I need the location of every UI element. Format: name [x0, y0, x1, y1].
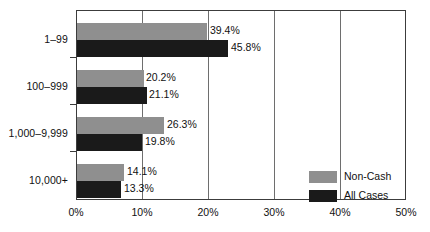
x-axis-label-40: 40% [329, 207, 350, 218]
y-axis-tick-3 [70, 151, 77, 152]
legend-swatch-icon-non-cash [309, 171, 337, 183]
value-label-noncash-10000plus: 14.1% [127, 166, 157, 177]
legend: Non-Cash All Cases [309, 168, 391, 206]
value-label-allcases-1-99: 45.8% [231, 42, 261, 53]
bar-noncash-100-999 [77, 70, 144, 87]
bar-allcases-1-99 [77, 40, 228, 57]
bar-allcases-100-999 [77, 87, 147, 104]
value-label-allcases-100-999: 21.1% [149, 89, 179, 100]
y-axis-tick-1 [70, 57, 77, 58]
bar-noncash-1000-9999 [77, 117, 164, 134]
bar-allcases-10000plus [77, 181, 121, 198]
x-axis-label-20: 20% [197, 207, 218, 218]
x-axis-label-50: 50% [395, 207, 416, 218]
legend-item-all-cases: All Cases [309, 187, 391, 204]
x-axis-label-10: 10% [131, 207, 152, 218]
bar-allcases-1000-9999 [77, 134, 142, 151]
bar-chart: Non-Cash All Cases 1–99 100–999 1,000–9,… [0, 0, 430, 232]
legend-item-non-cash: Non-Cash [309, 168, 391, 185]
value-label-allcases-1000-9999: 19.8% [145, 136, 175, 147]
bar-noncash-1-99 [77, 23, 207, 40]
y-axis-label-10000plus: 10,000+ [29, 175, 68, 186]
legend-label-all-cases: All Cases [344, 190, 388, 201]
x-axis-label-0: 0% [68, 207, 83, 218]
bar-noncash-10000plus [77, 164, 124, 181]
value-label-allcases-10000plus: 13.3% [124, 183, 154, 194]
plot-area: Non-Cash All Cases [76, 10, 406, 200]
y-axis-label-100-999: 100–999 [26, 81, 68, 92]
value-label-noncash-100-999: 20.2% [146, 72, 176, 83]
legend-swatch-icon-all-cases [309, 190, 337, 202]
x-axis-label-30: 30% [263, 207, 284, 218]
y-axis-label-1000-9999: 1,000–9,999 [9, 128, 69, 139]
y-axis-label-1-99: 1–99 [44, 34, 68, 45]
legend-label-non-cash: Non-Cash [344, 171, 391, 182]
value-label-noncash-1-99: 39.4% [210, 25, 240, 36]
y-axis-tick-2 [70, 104, 77, 105]
value-label-noncash-1000-9999: 26.3% [167, 119, 197, 130]
gridline-30 [274, 11, 275, 199]
